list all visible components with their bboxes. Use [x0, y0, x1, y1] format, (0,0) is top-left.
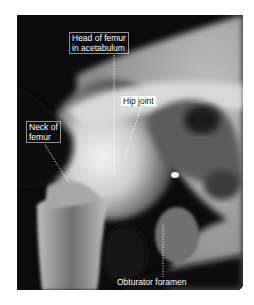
- label-neck-of-femur: Neck of femur: [26, 121, 61, 143]
- label-obturator-foramen: Obturator foramen: [115, 277, 188, 287]
- xray-figure: Head of femur in acetabulum Hip joint Ne…: [17, 15, 243, 290]
- label-head-of-femur: Head of femur in acetabulum: [69, 32, 129, 54]
- label-hip-joint: Hip joint: [120, 95, 157, 107]
- xray-image: [17, 15, 243, 290]
